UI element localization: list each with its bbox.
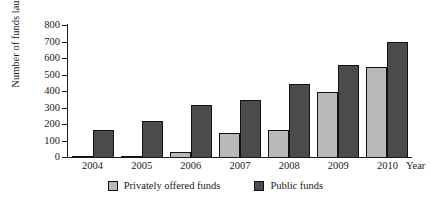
y-axis-tick-label: 100 [36,136,60,146]
x-axis-title: Year [406,160,425,171]
y-axis-tick-label: 0 [36,152,60,162]
bar-public-funds-2008 [289,84,310,157]
y-axis-tick-label: 400 [36,86,60,96]
bar-privately-offered-funds-2008 [268,130,289,157]
y-axis-tick [62,25,68,26]
bar-group [68,25,117,157]
bar-group [363,25,412,157]
x-axis-tick-label: 2006 [166,160,215,171]
bar-privately-offered-funds-2006 [170,152,191,157]
y-axis-tick [62,141,68,142]
bar-public-funds-2006 [191,105,212,157]
legend-label: Privately offered funds [124,180,221,191]
bar-privately-offered-funds-2005 [121,156,142,157]
legend-item: Privately offered funds [108,180,221,191]
bar-public-funds-2009 [338,65,359,157]
x-axis-tick-labels: 2004200520062007200820092010 [68,160,412,171]
bar-group [215,25,264,157]
y-axis-tick-labels: 8007006005004003002001000 [34,0,60,202]
y-axis-tick [62,58,68,59]
bar-public-funds-2004 [93,130,114,157]
bar-privately-offered-funds-2009 [317,92,338,157]
y-axis-tick [62,108,68,109]
legend-label: Public funds [270,180,323,191]
x-axis-tick-label: 2005 [117,160,166,171]
legend-swatch [108,181,118,191]
bar-group [314,25,363,157]
bar-group [117,25,166,157]
y-axis-tick-label: 200 [36,119,60,129]
bar-groups [68,25,412,157]
bar-group [166,25,215,157]
y-axis-tick [62,157,68,158]
y-axis-tick-label: 500 [36,70,60,80]
bar-chart-figure: Number of funds launched 800700600500400… [0,0,431,202]
bar-privately-offered-funds-2007 [219,133,240,157]
y-axis-tick-label: 300 [36,103,60,113]
bar-public-funds-2007 [240,100,261,157]
x-axis-tick-label: 2004 [68,160,117,171]
y-axis-tick [62,42,68,43]
bar-public-funds-2010 [387,42,408,158]
x-axis-tick-label: 2008 [265,160,314,171]
y-axis-tick [62,124,68,125]
x-axis-tick-label: 2010 [363,160,412,171]
bar-group [265,25,314,157]
y-axis-tick-label: 800 [36,20,60,30]
bar-privately-offered-funds-2004 [72,156,93,157]
y-axis-title: Number of funds launched [10,0,21,99]
bar-public-funds-2005 [142,121,163,157]
legend-item: Public funds [254,180,323,191]
bar-privately-offered-funds-2010 [366,67,387,157]
y-axis-tick-label: 600 [36,53,60,63]
chart-legend: Privately offered fundsPublic funds [0,180,431,191]
y-axis-tick-label: 700 [36,37,60,47]
y-axis-tick [62,75,68,76]
x-axis-line [67,157,412,158]
x-axis-tick-label: 2009 [314,160,363,171]
y-axis-tick [62,91,68,92]
x-axis-tick-label: 2007 [215,160,264,171]
legend-swatch [254,181,264,191]
